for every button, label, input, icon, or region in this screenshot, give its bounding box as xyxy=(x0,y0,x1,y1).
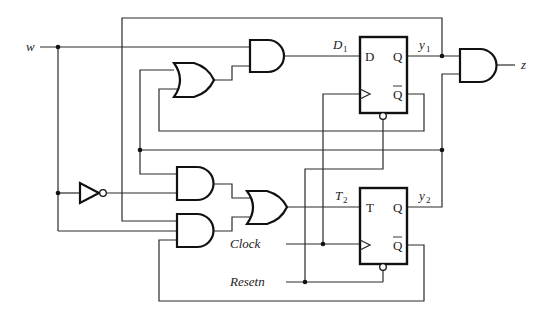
ff1-qbar-pin-label: Q xyxy=(393,87,403,102)
ff2-qbar-pin-label: Q xyxy=(393,238,403,253)
output-z-label: z xyxy=(520,57,526,72)
d1-signal-label: D 1 xyxy=(332,37,348,54)
svg-text:2: 2 xyxy=(343,195,348,205)
ff1-d-pin-label: D xyxy=(365,49,374,64)
svg-text:T: T xyxy=(335,188,343,203)
ff1-q-pin-label: Q xyxy=(393,49,403,64)
svg-text:y: y xyxy=(417,37,425,52)
not-gate xyxy=(80,183,106,203)
circuit-diagram: D Q Q T Q Q w z Clock Resetn D 1 y 1 T 2… xyxy=(0,0,551,318)
and-gate-z xyxy=(460,49,497,82)
svg-text:1: 1 xyxy=(343,44,348,54)
svg-text:2: 2 xyxy=(426,195,431,205)
or-gate-t2 xyxy=(247,191,287,224)
svg-text:y: y xyxy=(417,188,425,203)
resetn-label: Resetn xyxy=(229,274,265,289)
input-w-label: w xyxy=(26,39,35,54)
or-gate-d1 xyxy=(174,63,214,97)
svg-text:D: D xyxy=(332,37,343,52)
clock-label: Clock xyxy=(230,236,261,251)
y1-signal-label: y 1 xyxy=(417,37,431,54)
and-gate-t2-top xyxy=(177,167,214,200)
y2-signal-label: y 2 xyxy=(417,188,431,205)
and-gate-t2-bottom xyxy=(177,214,214,247)
svg-text:1: 1 xyxy=(426,44,431,54)
t-flipflop: T Q Q xyxy=(360,188,407,270)
ff2-t-pin-label: T xyxy=(366,200,374,215)
t2-signal-label: T 2 xyxy=(335,188,348,205)
ff2-q-pin-label: Q xyxy=(393,200,403,215)
and-gate-d1 xyxy=(250,40,284,72)
d-flipflop: D Q Q xyxy=(360,37,407,119)
